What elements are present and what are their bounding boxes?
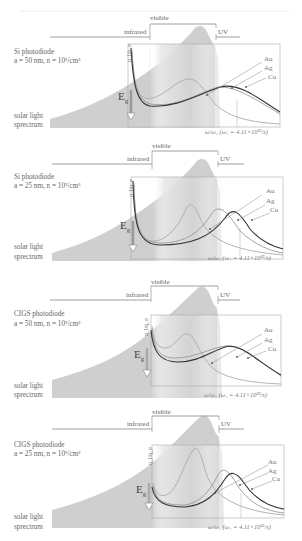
y-axis-label: q_l/q_e bbox=[146, 447, 155, 465]
uv-label: UV bbox=[218, 28, 228, 37]
visible-label: visible bbox=[152, 408, 171, 417]
au-label: Au bbox=[264, 55, 273, 64]
infrared-label: infrared bbox=[127, 420, 149, 429]
params-label: a = 25 nm, n = 10⁵/cm³ bbox=[14, 450, 80, 459]
ag-label: Ag bbox=[264, 336, 273, 345]
panel-cigs-50: visible infrared UV CIGS photodiode a = … bbox=[0, 270, 302, 403]
bandgap-label: Eg bbox=[136, 485, 146, 499]
spectrum-label-1: solar light bbox=[14, 513, 43, 522]
spectrum-label-2: sprectrum bbox=[14, 253, 43, 262]
bandgap-label: Eg bbox=[120, 221, 130, 235]
device-label: Si photodiode bbox=[14, 173, 54, 182]
spectrum-label-2: sprectrum bbox=[14, 523, 43, 532]
spectrum-label-2: sprectrum bbox=[14, 121, 43, 130]
infrared-label: infrared bbox=[124, 28, 146, 37]
spectrum-label-1: solar light bbox=[14, 243, 43, 252]
panel-si-25: visible infrared UV Si photodiode a = 25… bbox=[0, 133, 302, 266]
visible-label: visible bbox=[150, 14, 169, 23]
spectrum-label-1: solar light bbox=[14, 112, 43, 121]
y-axis-label: q_l/q_e bbox=[127, 179, 136, 197]
ag-label: Ag bbox=[266, 197, 275, 206]
uv-label: UV bbox=[220, 155, 230, 164]
x-axis-label: ω/ω₁ (ω₁ = 4.11×10¹⁵/s) bbox=[204, 390, 267, 399]
cu-label: Cu bbox=[268, 73, 276, 82]
panel-cigs-25: visible infrared UV CIGS photodiode a = … bbox=[0, 403, 302, 536]
panel-graphic bbox=[0, 403, 302, 541]
device-label: Si photodiode bbox=[14, 48, 54, 57]
au-label: Au bbox=[266, 187, 275, 196]
spectrum-label-1: solar light bbox=[14, 382, 43, 391]
params-label: a = 25 nm, n = 10⁵/cm³ bbox=[14, 182, 80, 191]
spectrum-label-2: sprectrum bbox=[14, 391, 43, 400]
cu-label: Cu bbox=[270, 206, 278, 215]
device-label: CIGS photodiode bbox=[14, 441, 65, 450]
bandgap-label: Eg bbox=[134, 350, 144, 364]
uv-label: UV bbox=[221, 420, 231, 429]
y-axis-label: q_l/q_e bbox=[142, 318, 151, 336]
plasmon-photodiode-figure: visible infrared UV Si photodiode a = 50… bbox=[0, 0, 302, 541]
panel-graphic bbox=[0, 270, 302, 403]
x-axis-label: ω/ω₁ (ω₁ = 4.11×10¹⁵/s) bbox=[208, 253, 271, 262]
cu-label: Cu bbox=[268, 345, 276, 354]
y-axis-label: q_l/q_e bbox=[125, 44, 134, 62]
visible-label: visible bbox=[152, 142, 171, 151]
device-label: CIGS photodiode bbox=[14, 310, 65, 319]
au-label: Au bbox=[264, 326, 273, 335]
params-label: a = 50 nm, n = 10⁵/cm³ bbox=[14, 320, 80, 329]
au-label: Au bbox=[268, 458, 277, 467]
cu-label: Cu bbox=[272, 475, 280, 484]
visible-band bbox=[150, 44, 222, 128]
params-label: a = 50 nm, n = 10⁵/cm³ bbox=[14, 57, 80, 66]
bandgap-label: Eg bbox=[118, 92, 128, 106]
x-axis-label: ω/ω₁ (ω₁ = 4.11×10¹⁵/s) bbox=[208, 522, 271, 531]
visible-label: visible bbox=[151, 278, 170, 287]
panel-graphic bbox=[0, 133, 302, 266]
uv-label: UV bbox=[220, 291, 230, 300]
panel-si-50: visible infrared UV Si photodiode a = 50… bbox=[0, 0, 302, 133]
infrared-label: infrared bbox=[127, 155, 149, 164]
infrared-label: infrared bbox=[126, 291, 148, 300]
ag-label: Ag bbox=[264, 64, 273, 73]
